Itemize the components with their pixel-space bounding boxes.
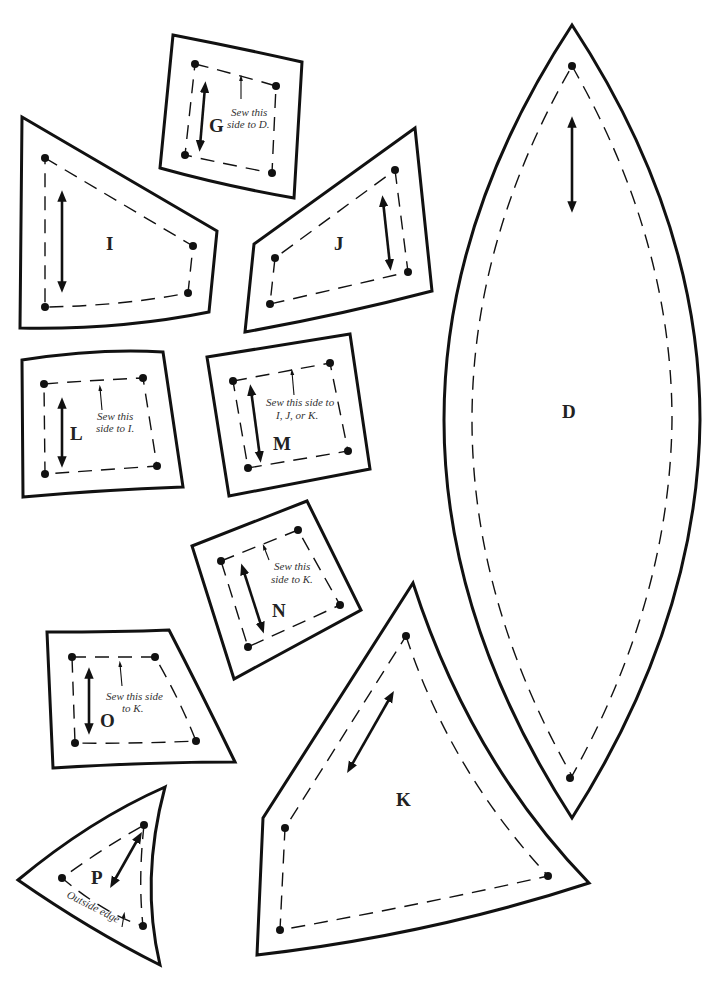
piece-d: D <box>444 25 700 818</box>
seam-dot <box>336 601 344 609</box>
piece-label-i: I <box>106 233 113 254</box>
seam-dot <box>151 653 159 661</box>
piece-note-m-line1: Sew this side to <box>266 396 335 408</box>
piece-n: N Sew this side to K. <box>192 501 361 679</box>
piece-label-j: J <box>334 233 344 254</box>
seam-dot <box>217 557 225 565</box>
seam-dot <box>568 62 576 70</box>
seam-dot <box>68 653 76 661</box>
seam-dot <box>391 166 399 174</box>
seam-dot <box>41 470 49 478</box>
seam-dot <box>244 643 252 651</box>
seam-dot <box>71 739 79 747</box>
seam-dot <box>271 254 279 262</box>
piece-note-m-line2: I, J, or K. <box>275 409 318 421</box>
seam-dot <box>58 874 66 882</box>
seam-dot <box>266 300 274 308</box>
piece-p: P Outside edge <box>18 787 165 965</box>
piece-note-l-line2: side to I. <box>96 422 134 434</box>
seam-dot <box>40 380 48 388</box>
seam-dot <box>404 268 412 276</box>
seam-dot <box>268 169 276 177</box>
seam-dot <box>153 462 161 470</box>
piece-label-k: K <box>396 789 411 810</box>
seam-dot <box>41 303 49 311</box>
seam-dot <box>184 289 192 297</box>
seam-dot <box>189 242 197 250</box>
seam-dot <box>229 377 237 385</box>
seam-dot <box>139 374 147 382</box>
piece-note-o-line2: to K. <box>122 702 143 714</box>
seam-dot <box>402 632 410 640</box>
piece-o: O Sew this side to K. <box>47 630 235 768</box>
piece-label-g: G <box>209 115 224 136</box>
piece-m: M Sew this side to I, J, or K. <box>207 334 370 496</box>
piece-label-o: O <box>100 710 115 731</box>
piece-note-o-line1: Sew this side <box>106 690 163 702</box>
piece-l: L Sew this side to I. <box>22 351 183 497</box>
seam-dot <box>139 922 147 930</box>
piece-note-g-line2: side to D. <box>227 118 269 130</box>
piece-g: G Sew this side to D. <box>160 35 302 198</box>
seam-dot <box>544 872 552 880</box>
piece-note-l-line1: Sew this <box>97 410 133 422</box>
pattern-sheet: G Sew this side to D. I J D <box>0 0 712 982</box>
seam-dot <box>244 464 252 472</box>
seam-dot <box>344 447 352 455</box>
piece-label-l: L <box>70 423 83 444</box>
seam-dot <box>294 526 302 534</box>
seam-dot <box>566 774 574 782</box>
seam-dot <box>272 82 280 90</box>
piece-label-m: M <box>273 433 291 454</box>
seam-dot <box>326 359 334 367</box>
seam-dot <box>181 151 189 159</box>
piece-note-g-line1: Sew this <box>231 106 267 118</box>
piece-label-n: N <box>272 600 286 621</box>
seam-dot <box>191 60 199 68</box>
seam-dot <box>140 821 148 829</box>
seam-dot <box>41 154 49 162</box>
piece-note-n-line2: side to K. <box>271 573 313 585</box>
piece-note-n-line1: Sew this <box>274 560 310 572</box>
piece-label-p: P <box>91 867 103 888</box>
seam-dot <box>276 926 284 934</box>
seam-dot <box>192 737 200 745</box>
piece-label-d: D <box>562 401 576 422</box>
seam-dot <box>281 824 289 832</box>
